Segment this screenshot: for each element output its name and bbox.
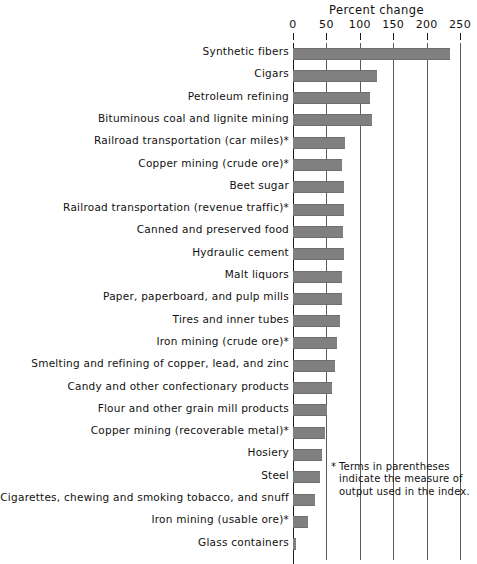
bar-category-label: Candy and other confectionary products [67,380,289,392]
bar-category-label: Petroleum refining [188,90,289,102]
x-tick-label-150: 150 [382,18,404,31]
bar [293,471,320,483]
bar [293,538,296,550]
bar [293,516,308,528]
bar [293,404,327,416]
x-tick-label-250: 250 [449,18,471,31]
bar-row: Railroad transportation (car miles)* [0,132,477,154]
bar [293,204,344,216]
bar-category-label: Smelting and refining of copper, lead, a… [31,357,289,369]
bar [293,293,342,305]
plot-area: Synthetic fibersCigarsPetroleum refining… [0,43,477,508]
bar-category-label: Iron mining (crude ore)* [156,335,289,347]
bar-category-label: Cigarettes, chewing and smoking tobacco,… [0,491,289,503]
bar [293,114,372,126]
bar [293,271,342,283]
bar [293,248,344,260]
bar [293,92,370,104]
bar-row: Bituminous coal and lignite mining [0,110,477,132]
bar [293,449,322,461]
bar [293,159,342,171]
bar [293,48,450,60]
bar-category-label: Flour and other grain mill products [98,402,289,414]
x-tick-label-0: 0 [289,18,296,31]
bar-category-label: Railroad transportation (car miles)* [94,134,289,146]
bar [293,337,337,349]
bar-category-label: Tires and inner tubes [173,313,289,325]
bar-category-label: Synthetic fibers [203,45,289,57]
bar [293,137,345,149]
bar-category-label: Beet sugar [229,179,289,191]
bar-row: Iron mining (usable ore)* [0,511,477,533]
bar-row: Glass containers [0,534,477,556]
bar-category-label: Iron mining (usable ore)* [151,513,289,525]
bar-category-label: Glass containers [198,536,289,548]
x-tick-mark-200 [427,33,428,40]
bar-row: Paper, paperboard, and pulp mills [0,288,477,310]
bar-category-label: Steel [261,469,289,481]
bar-category-label: Hydraulic cement [192,246,289,258]
bar-row: Copper mining (crude ore)* [0,155,477,177]
bar-category-label: Copper mining (recoverable metal)* [91,424,289,436]
bar [293,315,340,327]
bar-category-label: Railroad transportation (revenue traffic… [63,201,289,213]
footnote-marker: * [331,461,336,473]
bar-category-label: Copper mining (crude ore)* [138,157,289,169]
bar-category-label: Canned and preserved food [137,223,289,235]
x-tick-mark-0 [293,33,294,40]
x-tick-label-100: 100 [349,18,371,31]
bar-row: Flour and other grain mill products [0,400,477,422]
bar-category-label: Hosiery [248,446,289,458]
footnote: * Terms in parentheses indicate the meas… [331,461,477,498]
bar-row: Canned and preserved food [0,221,477,243]
x-tick-label-200: 200 [416,18,438,31]
bar [293,494,315,506]
bar-row: Iron mining (crude ore)* [0,333,477,355]
bar-row: Candy and other confectionary products [0,378,477,400]
bar [293,427,325,439]
bar [293,226,343,238]
bar-category-label: Cigars [254,67,289,79]
bar-category-label: Bituminous coal and lignite mining [98,112,289,124]
x-tick-label-50: 50 [319,18,334,31]
x-tick-mark-50 [326,33,327,40]
bar-row: Copper mining (recoverable metal)* [0,422,477,444]
bar-row: Petroleum refining [0,88,477,110]
x-axis-tick-labels: 050100150200250 [0,18,477,32]
bar-row: Smelting and refining of copper, lead, a… [0,355,477,377]
bar [293,70,377,82]
bar-row: Synthetic fibers [0,43,477,65]
bar [293,181,344,193]
x-tick-mark-100 [360,33,361,40]
bar-category-label: Paper, paperboard, and pulp mills [103,290,289,302]
bar-row: Beet sugar [0,177,477,199]
bar-row: Tires and inner tubes [0,311,477,333]
footnote-text: Terms in parentheses indicate the measur… [331,461,477,498]
bar-row: Railroad transportation (revenue traffic… [0,199,477,221]
bar [293,382,332,394]
bar-row: Hydraulic cement [0,244,477,266]
bar [293,360,335,372]
x-tick-mark-150 [393,33,394,40]
chart-title: Percent change [293,3,460,17]
x-tick-mark-250 [460,33,461,40]
bar-row: Cigars [0,65,477,87]
bar-row: Malt liquors [0,266,477,288]
bar-category-label: Malt liquors [225,268,289,280]
